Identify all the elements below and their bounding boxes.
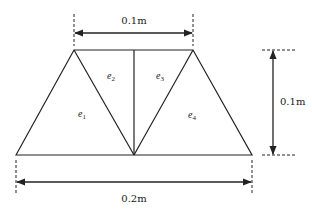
bottom-width-dimension: [16, 160, 252, 193]
edge-left-diagonal: [74, 50, 134, 155]
trapezoid-mesh-diagram: e1 e2 e3 e4 0.1m 0.2m 0.1m: [0, 0, 312, 215]
element-label-e1: e1: [78, 108, 86, 121]
element-label-e4: e4: [188, 109, 196, 122]
top-width-label: 0.1m: [121, 15, 147, 26]
element-label-e2: e2: [107, 70, 115, 83]
height-label: 0.1m: [280, 96, 306, 107]
element-label-e3: e3: [156, 70, 164, 83]
edge-right-diagonal: [134, 50, 193, 155]
bottom-width-label: 0.2m: [121, 193, 147, 204]
trapezoid-mesh: [16, 50, 252, 155]
